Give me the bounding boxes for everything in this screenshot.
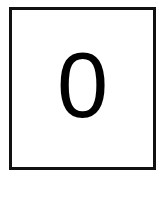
digit-card: 0: [9, 7, 156, 170]
digit-label: 0: [57, 39, 108, 131]
